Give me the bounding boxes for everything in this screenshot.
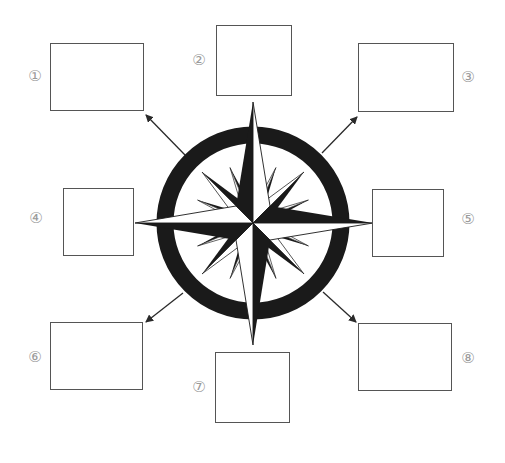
answer-box-2[interactable]	[216, 25, 292, 96]
west-point	[135, 206, 253, 240]
arrow-southwest	[146, 293, 183, 322]
box-label-5: ⑤	[459, 210, 477, 228]
compass-star	[135, 102, 373, 345]
arrow-northwest	[146, 115, 185, 155]
box-label-3: ③	[459, 68, 477, 86]
answer-box-4[interactable]	[63, 188, 134, 256]
south-point	[236, 223, 270, 345]
answer-box-5[interactable]	[372, 189, 444, 257]
box-label-6: ⑥	[26, 348, 44, 366]
box-label-7: ⑦	[190, 378, 208, 396]
box-label-4: ④	[27, 209, 45, 227]
answer-box-7[interactable]	[215, 352, 290, 423]
north-point	[236, 102, 270, 223]
arrow-northeast	[322, 117, 357, 153]
compass-diagram: ① ② ③ ④ ⑤ ⑥ ⑦ ⑧	[0, 0, 505, 463]
box-label-2: ②	[190, 51, 208, 69]
arrow-southeast	[323, 292, 356, 322]
answer-box-1[interactable]	[50, 43, 144, 111]
answer-box-8[interactable]	[358, 323, 452, 391]
east-point	[253, 206, 373, 240]
answer-box-3[interactable]	[358, 43, 454, 112]
answer-box-6[interactable]	[50, 322, 143, 390]
box-label-1: ①	[26, 67, 44, 85]
cardinal-points	[135, 102, 373, 345]
box-label-8: ⑧	[459, 349, 477, 367]
